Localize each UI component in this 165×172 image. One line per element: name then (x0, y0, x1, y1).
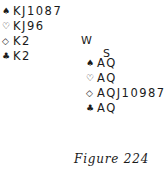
club-icon: ♣ (86, 101, 97, 116)
figure-caption: Figure 224 (74, 152, 149, 166)
spade-icon: ♠ (86, 56, 97, 71)
west-label: W (81, 34, 92, 47)
diamond-icon: ◇ (86, 86, 97, 101)
spade-icon: ♠ (2, 4, 13, 19)
south-hearts-cards: AQ (97, 71, 117, 85)
west-hearts-cards: KJ96 (13, 19, 45, 33)
south-clubs: ♣AQ (86, 101, 165, 116)
west-spades: ♠KJ1087 (2, 4, 62, 19)
west-diamonds: ◇K2 (2, 34, 62, 49)
west-hand: ♠KJ1087 ♡KJ96 ◇K2 ♣K2 (2, 4, 62, 64)
south-hearts: ♡AQ (86, 71, 165, 86)
south-spades-cards: AQ (97, 56, 117, 70)
heart-icon: ♡ (86, 71, 97, 86)
south-hand: ♠AQ ♡AQ ◇AQJ10987 ♣AQ (86, 56, 165, 116)
south-clubs-cards: AQ (97, 101, 117, 115)
club-icon: ♣ (2, 49, 13, 64)
west-hearts: ♡KJ96 (2, 19, 62, 34)
heart-icon: ♡ (2, 19, 13, 34)
west-diamonds-cards: K2 (13, 34, 31, 48)
diamond-icon: ◇ (2, 34, 13, 49)
west-spades-cards: KJ1087 (13, 4, 62, 18)
south-diamonds: ◇AQJ10987 (86, 86, 165, 101)
south-spades: ♠AQ (86, 56, 165, 71)
west-clubs-cards: K2 (13, 49, 31, 63)
west-clubs: ♣K2 (2, 49, 62, 64)
south-diamonds-cards: AQJ10987 (97, 86, 165, 100)
